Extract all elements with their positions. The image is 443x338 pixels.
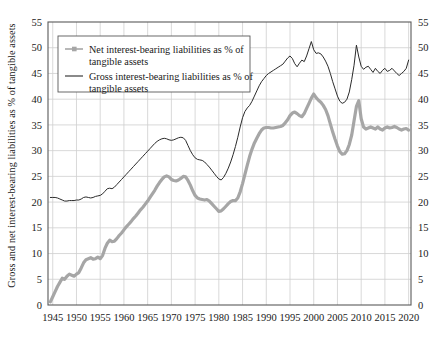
svg-text:30: 30 [32, 145, 43, 156]
chart-plot: 0055101015152020252530303535404045455050… [0, 0, 443, 338]
svg-text:5: 5 [418, 274, 423, 285]
svg-text:10: 10 [418, 248, 429, 259]
svg-text:tangible assets: tangible assets [89, 83, 148, 94]
svg-text:1985: 1985 [232, 312, 253, 323]
svg-text:15: 15 [418, 222, 429, 233]
svg-text:15: 15 [32, 222, 43, 233]
svg-text:2005: 2005 [327, 312, 348, 323]
svg-text:20: 20 [32, 197, 43, 208]
svg-text:55: 55 [418, 17, 429, 28]
svg-text:25: 25 [32, 171, 43, 182]
svg-text:50: 50 [418, 42, 429, 53]
svg-text:10: 10 [32, 248, 43, 259]
svg-text:2020: 2020 [398, 312, 419, 323]
svg-text:40: 40 [32, 94, 43, 105]
svg-text:0: 0 [37, 300, 42, 311]
svg-text:45: 45 [418, 68, 429, 79]
svg-text:5: 5 [37, 274, 42, 285]
svg-text:1970: 1970 [161, 312, 182, 323]
svg-text:20: 20 [418, 197, 429, 208]
svg-text:1950: 1950 [66, 312, 87, 323]
svg-text:1965: 1965 [137, 312, 158, 323]
svg-text:1980: 1980 [208, 312, 229, 323]
svg-text:50: 50 [32, 42, 43, 53]
svg-text:2010: 2010 [351, 312, 372, 323]
svg-text:Gross interest-bearing liabil: Gross interest-bearing liabilities as % … [89, 71, 253, 82]
svg-text:0: 0 [418, 300, 423, 311]
svg-text:2000: 2000 [303, 312, 324, 323]
svg-text:40: 40 [418, 94, 429, 105]
chart-figure: Gross and net interest-bearing liabiliti… [0, 0, 443, 338]
svg-text:tangible assets: tangible assets [89, 56, 148, 67]
svg-text:55: 55 [32, 17, 43, 28]
svg-text:1960: 1960 [113, 312, 134, 323]
svg-text:2015: 2015 [374, 312, 395, 323]
svg-text:1975: 1975 [185, 312, 206, 323]
svg-text:45: 45 [32, 68, 43, 79]
svg-text:1990: 1990 [256, 312, 277, 323]
svg-text:35: 35 [32, 120, 43, 131]
svg-text:1955: 1955 [90, 312, 111, 323]
chart-legend: Net interest-bearing liabilities as % of… [58, 36, 253, 94]
svg-text:25: 25 [418, 171, 429, 182]
svg-text:1945: 1945 [42, 312, 63, 323]
svg-text:30: 30 [418, 145, 429, 156]
svg-text:35: 35 [418, 120, 429, 131]
svg-text:1995: 1995 [280, 312, 301, 323]
svg-text:Net interest-bearing liabiliti: Net interest-bearing liabilities as % of [89, 44, 244, 55]
